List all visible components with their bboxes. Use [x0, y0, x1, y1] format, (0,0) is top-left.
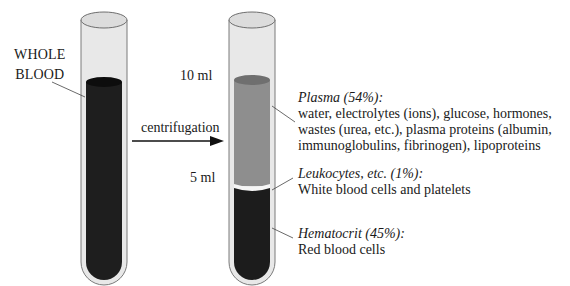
- scale-10ml: 10 ml: [180, 68, 212, 84]
- hematocrit-title: Hematocrit (45%):: [298, 226, 405, 242]
- leukocytes-description: Leukocytes, etc. (1%): White blood cells…: [298, 166, 471, 198]
- whole-blood-label: WHOLE BLOOD: [14, 45, 66, 85]
- plasma-layer: [234, 80, 270, 186]
- hematocrit-layer: [234, 188, 270, 280]
- whole-blood-tube: [81, 12, 127, 285]
- leukocytes-title: Leukocytes, etc. (1%):: [298, 166, 471, 182]
- plasma-description: Plasma (54%): water, electrolytes (ions)…: [298, 90, 552, 154]
- scale-5ml: 5 ml: [190, 170, 215, 186]
- separated-blood-tube: [229, 12, 275, 285]
- hematocrit-description: Hematocrit (45%): Red blood cells: [298, 226, 405, 258]
- centrifugation-label: centrifugation: [141, 120, 220, 136]
- plasma-title: Plasma (54%):: [298, 90, 552, 106]
- centrifugation-arrow: [132, 136, 224, 146]
